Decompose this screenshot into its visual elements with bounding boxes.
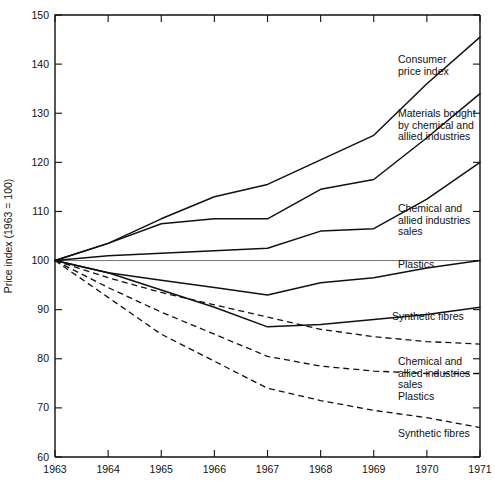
- y-tick-label: 100: [31, 254, 49, 266]
- annotation-line: Synthetic fibres: [398, 427, 470, 439]
- annotation-line: Plastics: [398, 390, 434, 402]
- annotation-line: allied industries: [398, 130, 470, 142]
- y-tick-label: 140: [31, 58, 49, 70]
- annotation-line: Materials bought: [398, 107, 476, 119]
- annotation-line: price index: [398, 65, 450, 77]
- y-tick-label: 90: [37, 303, 49, 315]
- x-tick-label: 1965: [150, 463, 174, 475]
- annotation-line: sales: [398, 225, 423, 237]
- x-tick-label: 1966: [203, 463, 227, 475]
- x-axis-tick-labels: 196319641965196619671968196919701971: [43, 463, 492, 475]
- x-tick-label: 1969: [362, 463, 386, 475]
- annotation-line: Chemical and: [398, 355, 462, 367]
- annotation-line: Chemical and: [398, 202, 462, 214]
- annot-plastics-dashed: Plastics: [398, 390, 434, 402]
- x-tick-label: 1968: [309, 463, 333, 475]
- cropped-header-text: [0, 0, 495, 6]
- annot-materials: Materials boughtby chemical andallied in…: [398, 107, 476, 142]
- annot-plastics-solid: Plastics: [398, 258, 434, 270]
- y-tick-label: 110: [32, 205, 49, 217]
- annotation-line: by chemical and: [398, 119, 474, 131]
- annotation-line: allied industries: [398, 214, 470, 226]
- y-tick-label: 130: [31, 107, 49, 119]
- y-axis-title-text: Price index (1963 = 100): [2, 179, 14, 294]
- x-tick-label: 1967: [256, 463, 280, 475]
- y-tick-label: 80: [37, 352, 49, 364]
- chart-figure: 60708090100110120130140150 1963196419651…: [0, 0, 495, 485]
- annot-cpi: Consumerprice index: [398, 53, 450, 77]
- y-tick-label: 60: [37, 451, 49, 463]
- annot-synthetic-dashed: Synthetic fibres: [398, 427, 470, 439]
- price-index-line-chart: 60708090100110120130140150 1963196419651…: [0, 0, 495, 485]
- x-tick-label: 1964: [96, 463, 120, 475]
- x-tick-label: 1963: [43, 463, 67, 475]
- y-tick-label: 70: [37, 401, 49, 413]
- annot-synthetic-solid: Synthetic fibres: [392, 310, 464, 322]
- annotation-line: Synthetic fibres: [392, 310, 464, 322]
- annotation-line: sales: [398, 378, 423, 390]
- x-tick-label: 1970: [415, 463, 439, 475]
- y-axis-title: Price index (1963 = 100): [2, 179, 14, 294]
- annotation-line: Consumer: [398, 53, 447, 65]
- x-tick-label: 1971: [468, 463, 492, 475]
- y-tick-label: 150: [31, 9, 49, 21]
- annotation-line: allied industries: [398, 367, 470, 379]
- annotation-line: Plastics: [398, 258, 434, 270]
- y-tick-label: 120: [31, 156, 49, 168]
